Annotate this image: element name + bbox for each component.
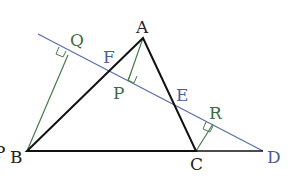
label-a: A <box>135 17 149 37</box>
label-c: C <box>190 154 203 174</box>
perpendicular-cr <box>196 124 213 151</box>
label-b: B <box>10 147 23 167</box>
secant-line-qd <box>38 34 263 151</box>
label-p: P <box>113 83 124 103</box>
label-e: E <box>176 85 188 105</box>
label-q: Q <box>70 30 84 50</box>
label-r: R <box>209 103 223 123</box>
perpendicular-bq <box>27 55 68 151</box>
geometry-diagram: A B P C D E F P Q R <box>0 0 300 185</box>
label-f: F <box>103 47 115 67</box>
label-partial: P <box>0 142 5 162</box>
label-d: D <box>267 147 281 167</box>
